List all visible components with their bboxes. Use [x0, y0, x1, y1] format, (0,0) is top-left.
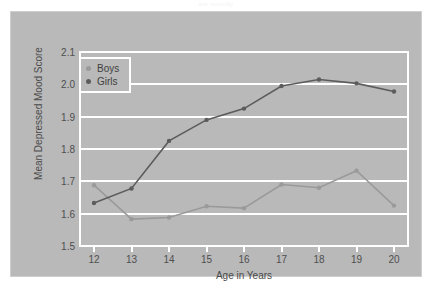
x-tick-label: 16	[229, 254, 259, 265]
x-axis-tick-labels: 121314151617181920	[79, 254, 409, 268]
y-axis-tick-labels: 1.51.61.71.81.92.02.1	[47, 52, 75, 246]
data-point-girls	[279, 84, 283, 88]
legend-marker-boys-icon	[86, 66, 91, 71]
data-point-girls	[129, 186, 133, 190]
legend-label-girls: Girls	[97, 75, 118, 88]
y-tick-label: 2.0	[49, 79, 75, 90]
x-tick-mark	[356, 246, 358, 252]
x-tick-mark	[131, 246, 133, 252]
data-point-girls	[92, 201, 96, 205]
x-tick-mark	[281, 246, 283, 252]
data-point-girls	[392, 89, 396, 93]
legend-item-boys: Boys	[86, 62, 119, 75]
y-tick-label: 1.6	[49, 208, 75, 219]
x-axis-label: Age in Years	[79, 270, 409, 281]
chart-figure: are recently Mean Depressed Mood Score 1…	[0, 0, 432, 288]
y-axis-label: Mean Depressed Mood Score	[33, 19, 44, 209]
y-tick-label: 1.9	[49, 111, 75, 122]
x-tick-label: 14	[154, 254, 184, 265]
data-point-boys	[354, 168, 358, 172]
data-point-boys	[204, 204, 208, 208]
x-tick-label: 17	[267, 254, 297, 265]
y-tick-label: 1.8	[49, 144, 75, 155]
legend: Boys Girls	[79, 57, 131, 93]
legend-label-boys: Boys	[97, 62, 119, 75]
data-point-girls	[317, 77, 321, 81]
x-tick-mark	[393, 246, 395, 252]
x-tick-mark	[206, 246, 208, 252]
x-tick-label: 13	[117, 254, 147, 265]
x-tick-label: 20	[379, 254, 409, 265]
data-point-boys	[392, 203, 396, 207]
data-point-girls	[204, 118, 208, 122]
data-point-girls	[354, 81, 358, 85]
data-point-girls	[167, 139, 171, 143]
x-tick-mark	[318, 246, 320, 252]
top-caption: are recently	[0, 0, 432, 9]
series-line-girls	[94, 79, 394, 203]
y-tick-label: 1.5	[49, 241, 75, 252]
x-tick-label: 15	[192, 254, 222, 265]
legend-item-girls: Girls	[86, 75, 119, 88]
legend-marker-girls-icon	[86, 79, 91, 84]
data-point-boys	[167, 215, 171, 219]
y-tick-label: 2.1	[49, 47, 75, 58]
data-point-boys	[242, 206, 246, 210]
data-point-girls	[242, 106, 246, 110]
x-tick-label: 19	[342, 254, 372, 265]
data-point-boys	[129, 217, 133, 221]
x-tick-label: 18	[304, 254, 334, 265]
chart-panel: Mean Depressed Mood Score 1.51.61.71.81.…	[10, 11, 422, 277]
x-axis-tick-marks	[79, 246, 409, 253]
x-tick-label: 12	[79, 254, 109, 265]
x-tick-mark	[243, 246, 245, 252]
y-tick-label: 1.7	[49, 176, 75, 187]
data-point-boys	[279, 182, 283, 186]
data-point-boys	[92, 183, 96, 187]
x-tick-mark	[93, 246, 95, 252]
x-tick-mark	[168, 246, 170, 252]
data-point-boys	[317, 186, 321, 190]
